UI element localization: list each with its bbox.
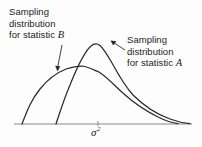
- annotation-b-statistic: B: [58, 29, 65, 40]
- arrow-to-curve-b: [55, 45, 62, 72]
- sigma-symbol: σ: [91, 126, 96, 138]
- annotation-b-line1: Sampling: [9, 6, 64, 18]
- annotation-a-line2: distribution: [127, 46, 182, 58]
- annotation-a-line3: for statistic A: [127, 57, 182, 69]
- annotation-statistic-b: Sampling distribution for statistic B: [9, 6, 64, 41]
- sampling-distribution-figure: Sampling distribution for statistic B Sa…: [0, 0, 202, 147]
- annotation-b-line3: for statistic B: [9, 29, 64, 41]
- annotation-b-line2: distribution: [9, 18, 64, 30]
- annotation-a-line1: Sampling: [127, 34, 182, 46]
- sigma-exponent: 2: [97, 125, 101, 133]
- annotation-statistic-a: Sampling distribution for statistic A: [127, 34, 182, 69]
- x-axis-tick-label: σ2: [91, 126, 100, 138]
- annotation-a-statistic: A: [176, 57, 183, 68]
- curve-statistic-b: [22, 66, 178, 124]
- arrow-to-curve-a: [111, 41, 126, 50]
- annotation-a-line3-prefix: for statistic: [127, 57, 176, 68]
- annotation-b-line3-prefix: for statistic: [9, 29, 58, 40]
